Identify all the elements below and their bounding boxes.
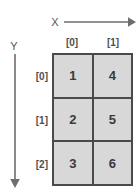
column-header-0: [0] [52, 36, 92, 50]
matrix-cell: 3 [54, 142, 92, 184]
row-header-1: [1] [20, 114, 48, 128]
x-axis-label: X [48, 14, 62, 30]
matrix-grid: 1 4 2 5 3 6 [52, 53, 133, 186]
y-axis-label: Y [6, 39, 22, 54]
matrix-cell: 6 [94, 142, 132, 184]
matrix-cell: 5 [94, 99, 132, 141]
array-index-diagram: X Y [0] [1] [0] [1] [2] 1 4 2 5 3 6 [0, 0, 139, 194]
row-header-2: [2] [20, 158, 48, 172]
arrow-right-icon [64, 14, 136, 30]
matrix-cell: 1 [54, 55, 92, 97]
matrix-cell: 4 [94, 55, 132, 97]
row-header-0: [0] [20, 70, 48, 84]
column-header-1: [1] [93, 36, 133, 50]
matrix-cell: 2 [54, 99, 92, 141]
